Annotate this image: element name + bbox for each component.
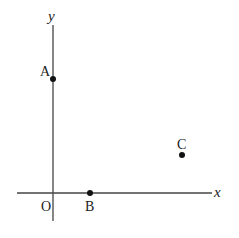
x-axis-label: x [213, 184, 221, 200]
coordinate-diagram: x y O A B C [0, 0, 239, 238]
point-c [179, 152, 185, 158]
point-b [87, 190, 93, 196]
point-b-label: B [85, 199, 94, 214]
point-c-label: C [177, 137, 186, 152]
y-axis-label: y [46, 8, 55, 24]
point-a-label: A [40, 64, 51, 79]
origin-label: O [41, 199, 51, 214]
point-a [50, 76, 56, 82]
